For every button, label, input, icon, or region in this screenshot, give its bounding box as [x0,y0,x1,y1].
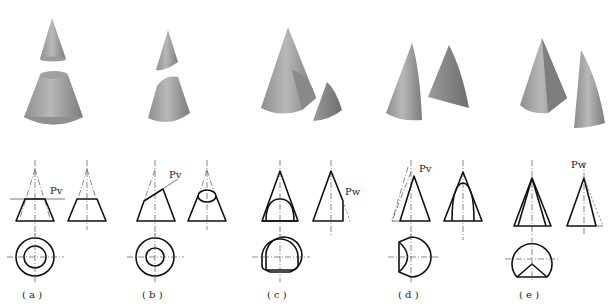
solid-c [261,27,342,121]
views-e: Pw ( e ) [505,159,603,300]
solid-d [386,43,469,120]
plane-label-c: Pw [345,186,361,197]
solid-a [24,18,83,125]
caption-d: ( d ) [398,289,419,300]
caption-c: ( c ) [267,289,287,300]
solid-e [520,38,605,128]
views-d: Pv ( d ) [388,160,482,300]
solid-b [148,30,190,122]
caption-b: ( b ) [142,289,163,300]
caption-a: ( a ) [22,289,42,300]
caption-e: ( e ) [519,289,539,300]
plane-label-e: Pw [571,159,587,170]
views-c: Pw ( c ) [252,160,361,300]
plane-label-d: Pv [419,163,432,174]
plane-label-b: Pv [169,169,182,180]
views-b: Pv ( b ) [127,160,226,300]
plane-label-a: Pv [50,185,63,196]
views-a: Pv ( a ) [7,160,106,300]
cone-sections-figure: Pv ( a ) Pv ( b ) P [0,0,616,308]
